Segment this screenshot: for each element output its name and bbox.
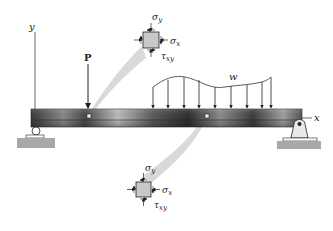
tau-xy-label: τxy	[154, 200, 168, 212]
cone-top	[87, 46, 146, 117]
distributed-load: w	[153, 71, 271, 108]
beam-stress-diagram: y x P w	[0, 0, 333, 231]
y-axis-label: y	[28, 21, 35, 32]
y-axis: y	[28, 21, 35, 122]
tau-xy-label: τxy	[161, 51, 175, 63]
distributed-load-label: w	[229, 71, 238, 82]
sigma-x-label: σx	[170, 36, 180, 48]
point-load-label: P	[84, 52, 92, 63]
point-load: P	[84, 52, 92, 108]
sigma-y-label: σy	[152, 12, 163, 24]
point-marker-left	[87, 114, 91, 118]
beam	[31, 109, 302, 127]
sigma-x-label: σx	[162, 185, 172, 197]
sigma-y-label: σy	[145, 163, 156, 175]
point-marker-right	[205, 114, 209, 118]
x-axis: x	[302, 112, 320, 123]
x-axis-label: x	[314, 112, 320, 123]
roller-support	[17, 127, 55, 148]
